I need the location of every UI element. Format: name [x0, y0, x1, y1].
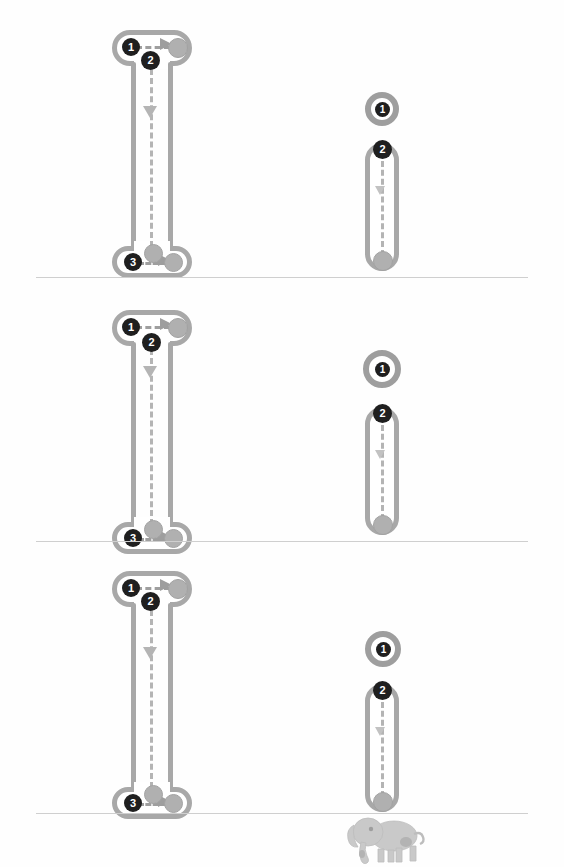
stem-arrow-down-icon	[143, 366, 157, 378]
track-stem-right-rail	[168, 62, 173, 252]
track-stem-left-rail	[131, 342, 136, 528]
step-badge-2: 2	[141, 592, 160, 611]
capsule-dashed-path	[381, 152, 384, 256]
panel-divider-3	[36, 813, 528, 814]
capsule-badge-2: 2	[373, 140, 392, 159]
stem-arrow-down-icon	[143, 106, 157, 118]
track-stem-right-rail	[168, 342, 173, 528]
capsule-node	[373, 792, 393, 812]
step-badge-3: 3	[124, 794, 142, 812]
capsule-arrow-icon	[375, 450, 385, 459]
foot-node-b	[164, 253, 183, 272]
ring-badge-1: 1	[375, 102, 390, 117]
track-stem-left-rail	[131, 62, 136, 252]
step-badge-2: 2	[142, 333, 161, 352]
foot-node-a	[144, 244, 163, 263]
diagram-stage: 1 2 3 1 2	[0, 0, 564, 867]
step-badge-1: 1	[122, 318, 140, 336]
stem-arrow-down-icon	[143, 647, 157, 659]
head-node	[168, 318, 188, 338]
capsule-arrow-icon	[375, 727, 385, 736]
step-badge-1: 1	[122, 579, 140, 597]
step-badge-1: 1	[122, 38, 140, 56]
step-badge-2: 2	[141, 51, 160, 70]
stem-dashed-path	[150, 601, 153, 797]
capsule-arrow-icon	[375, 186, 385, 195]
elephant-icon	[344, 812, 430, 867]
step-badge-3: 3	[124, 253, 142, 271]
stem-dashed-path	[150, 60, 153, 256]
ring-badge-1: 1	[375, 362, 390, 377]
head-node	[168, 38, 188, 58]
capsule-badge-2: 2	[373, 404, 392, 423]
capsule-node	[373, 251, 393, 271]
foot-node-a	[144, 520, 163, 539]
track-stem-right-rail	[168, 603, 173, 793]
foot-node-a	[144, 785, 163, 804]
panel-3: 1 2 3 1 2	[0, 541, 564, 819]
panel-1: 1 2 3 1 2	[0, 0, 564, 278]
capsule-node	[373, 515, 393, 535]
panel-2: 1 2 3 1 2	[0, 278, 564, 556]
track-stem-left-rail	[131, 603, 136, 793]
head-node	[168, 579, 188, 599]
ring-badge-1: 1	[376, 642, 391, 657]
capsule-dashed-path	[381, 693, 384, 797]
capsule-dashed-path	[381, 416, 384, 520]
foot-node-b	[164, 794, 183, 813]
capsule-badge-2: 2	[373, 681, 392, 700]
